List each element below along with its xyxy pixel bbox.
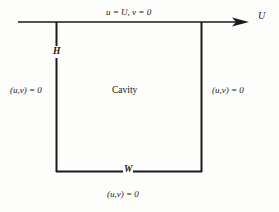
cavity-region-label: Cavity <box>112 86 137 96</box>
bottom-boundary-condition-label: (u,v) = 0 <box>107 190 139 199</box>
top-boundary-condition-label: u = U, v = 0 <box>106 8 151 17</box>
cavity-height-label: H <box>52 46 61 58</box>
left-boundary-condition-label: (u,v) = 0 <box>10 86 42 95</box>
lid-velocity-label: U <box>258 11 265 21</box>
right-boundary-condition-label: (u,v) = 0 <box>212 86 244 95</box>
lid-driven-cavity-figure: u = U, v = 0 U H W (u,v) = 0 (u,v) = 0 (… <box>0 0 279 212</box>
cavity-width-label: W <box>123 165 133 175</box>
cavity-geometry-drawing <box>0 0 279 212</box>
